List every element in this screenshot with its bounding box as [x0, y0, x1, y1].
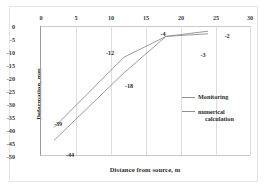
x-axis-title: Distance from source, m — [40, 166, 250, 173]
legend-label-monitoring: Monitoring — [198, 93, 228, 101]
data-label-numerical-3: -3 — [200, 51, 205, 58]
legend: Monitoring numericalcalculation — [182, 93, 234, 130]
data-label-monitoring-0: -39 — [54, 120, 62, 127]
legend-label-numerical-line1: numerical — [198, 108, 225, 115]
legend-item-numerical-calculation: numericalcalculation — [182, 108, 234, 123]
data-label-kink: -4 — [160, 30, 165, 37]
deformation-vs-distance-chart: Deformation, mm 0 -5 -10 -15 -20 -25 -30… — [0, 0, 267, 188]
data-label-monitoring-1: -12 — [106, 49, 114, 56]
data-label-numerical-0: -44 — [66, 151, 74, 158]
data-label-monitoring-3: -2 — [224, 32, 229, 39]
legend-line-swatch-monitoring — [182, 97, 195, 98]
legend-label-numerical-line2: calculation — [198, 115, 234, 123]
legend-line-swatch-numerical — [182, 111, 195, 112]
legend-label-numerical-calculation: numericalcalculation — [198, 108, 234, 123]
legend-item-monitoring: Monitoring — [182, 93, 234, 101]
data-label-numerical-1: -18 — [125, 82, 133, 89]
